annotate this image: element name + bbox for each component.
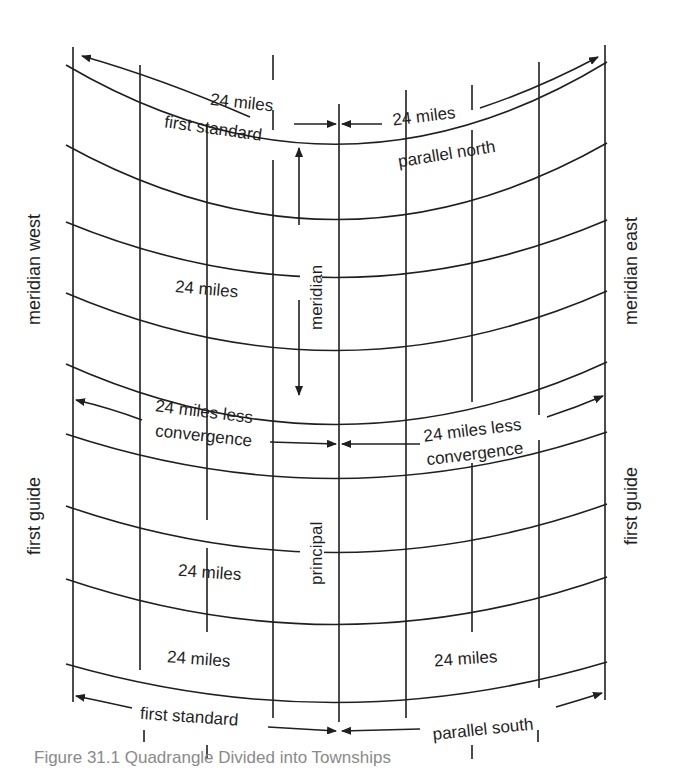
township-line [66, 362, 607, 425]
convergence-right-arrow [547, 396, 603, 417]
township-line [66, 504, 607, 553]
township-line [66, 432, 607, 479]
center-meridian-label: meridian [307, 265, 326, 330]
bottom-left-arrow-right [268, 727, 336, 731]
lower-distance-label: 24 miles [177, 561, 241, 584]
township-line [66, 577, 607, 625]
bottom-left-arrow [76, 696, 132, 708]
top-parallel-right-label: parallel north [397, 137, 497, 171]
bottom-right-distance-label: 24 miles [433, 647, 497, 670]
bottom-right-arrow [556, 693, 602, 707]
top-parallel-left-label: first standard [163, 112, 263, 144]
bottom-right-arrow-left [342, 729, 420, 731]
bottom-parallel-right-label: parallel south [432, 714, 535, 743]
first-standard-parallel-north [66, 62, 607, 144]
convergence-left-arrow-right [270, 442, 336, 444]
bottom-left-distance-label: 24 miles [166, 647, 230, 670]
convergence-left-line2: convergence [154, 421, 253, 450]
township-line [66, 143, 607, 220]
top-right-distance-label: 24 miles [391, 103, 456, 130]
first-guide-left-label: first guide [24, 477, 44, 555]
top-left-distance-label: 24 miles [209, 90, 274, 116]
meridian-west-label: meridian west [24, 214, 44, 325]
township-line [66, 291, 607, 351]
meridian-east-label: meridian east [621, 217, 641, 325]
first-guide-right-label: first guide [621, 467, 641, 545]
figure-caption: Figure 31.1 Quadrangle Divided into Town… [34, 748, 391, 768]
center-principal-label: principal [307, 522, 326, 585]
bottom-parallel-left-label: first standard [140, 704, 239, 730]
township-line [66, 220, 607, 278]
first-standard-parallel-south [66, 662, 607, 703]
inner-distance-label: 24 miles [174, 277, 239, 301]
convergence-left-arrow [76, 400, 142, 420]
